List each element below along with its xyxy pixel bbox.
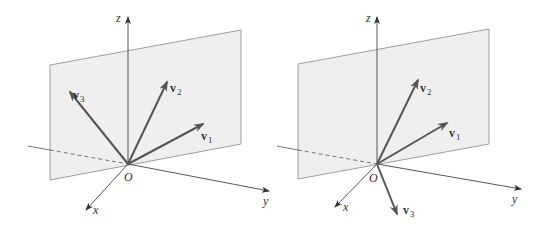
svg-text:3: 3 [410,209,415,219]
svg-text:1: 1 [208,135,213,145]
svg-text:2: 2 [427,87,432,97]
z-axis-label: z [365,11,371,25]
y-axis [128,164,269,191]
svg-text:v: v [449,126,455,140]
negative-y-axis-dashed [277,146,298,150]
origin-label: O [124,170,133,184]
svg-text:v: v [170,81,176,95]
svg-text:v: v [201,129,207,143]
origin-label: O [369,171,378,185]
svg-text:2: 2 [177,87,182,97]
svg-text:v: v [420,81,426,95]
vector-v3 [377,164,397,214]
z-axis-label: z [115,11,121,25]
y-axis-label: y [262,194,269,208]
svg-text:v: v [73,88,79,102]
x-axis-label: x [342,200,349,214]
negative-y-axis-dashed [28,146,50,150]
svg-text:3: 3 [80,94,85,104]
diagram-canvas: z y x O v 1 v 2 v 3 z y x O v [0,0,543,232]
y-axis-label: y [511,192,518,206]
svg-text:1: 1 [456,132,461,142]
v3-label: v 3 [403,203,415,219]
plane [298,29,489,179]
svg-text:v: v [403,203,409,217]
left-figure: z y x O v 1 v 2 v 3 [28,11,269,217]
x-axis-label: x [92,203,99,217]
right-figure: z y x O v 1 v 2 v 3 [277,11,521,219]
plane [50,30,241,180]
y-axis [377,164,521,189]
